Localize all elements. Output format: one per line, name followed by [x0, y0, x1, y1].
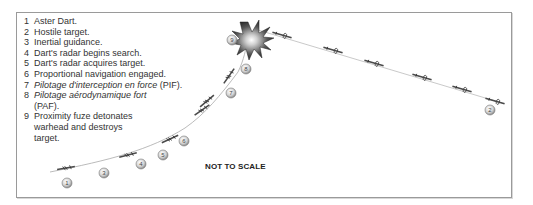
marker-4: 4: [136, 159, 146, 169]
marker-6: 6: [179, 136, 189, 146]
marker-9: 9: [227, 35, 237, 45]
marker-1: 1: [62, 178, 72, 188]
marker-5: 5: [158, 150, 168, 160]
marker-2: 2: [485, 105, 495, 115]
marker-3: 3: [99, 168, 109, 178]
dart-missile-icons: [57, 67, 236, 171]
target-icons: [272, 30, 506, 107]
marker-7: 7: [226, 88, 236, 98]
dart-trajectory: [50, 38, 248, 172]
marker-8: 8: [241, 64, 251, 74]
interception-diagram: 1 2 3 4 5 6 7 8 9: [0, 0, 533, 205]
